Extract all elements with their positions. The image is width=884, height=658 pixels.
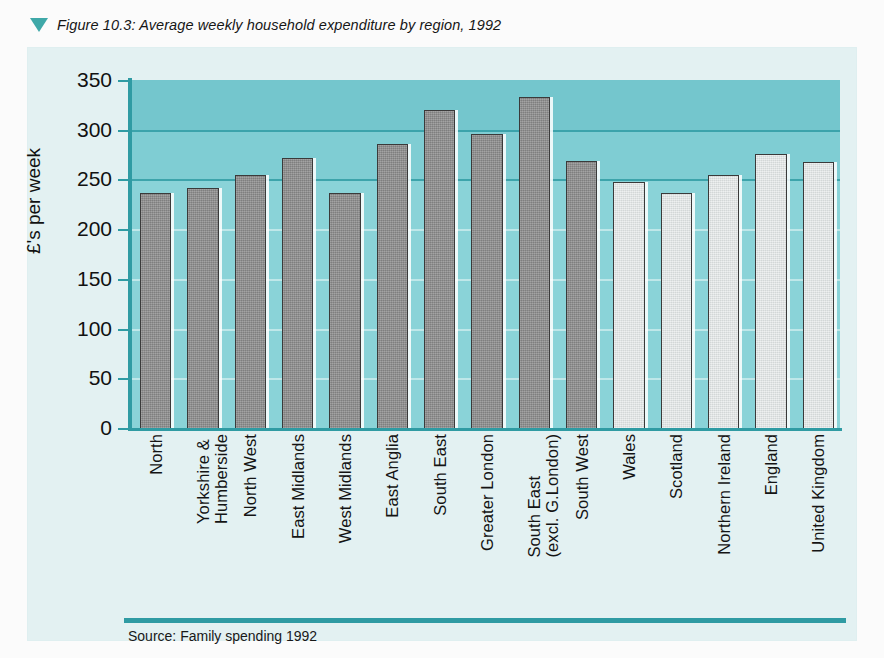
plot-band-upper <box>130 80 840 130</box>
bar-13[interactable] <box>755 154 786 428</box>
bar-8[interactable] <box>519 97 550 428</box>
x-tick-label-0: North <box>147 434 165 475</box>
x-tick-label-11: Scotland <box>667 434 685 499</box>
y-tick-label-0: 0 <box>42 416 112 440</box>
figure-caption-text: Figure 10.3: Average weekly household ex… <box>57 17 501 33</box>
y-tick-150 <box>118 279 130 281</box>
y-tick-100 <box>118 329 130 331</box>
x-tick-label-6: South East <box>431 434 449 516</box>
y-tick-label-50: 50 <box>42 366 112 390</box>
bar-4[interactable] <box>329 193 360 428</box>
y-tick-300 <box>118 130 130 132</box>
bar-11[interactable] <box>661 193 692 428</box>
source-note: Source: Family spending 1992 <box>128 628 317 644</box>
bar-10[interactable] <box>613 182 644 428</box>
y-tick-250 <box>118 179 130 181</box>
x-tick-label-1: Yorkshire & Humberside <box>194 434 231 524</box>
bar-14[interactable] <box>803 162 834 428</box>
x-tick-label-5: East Anglia <box>383 434 401 518</box>
bar-0[interactable] <box>140 193 171 428</box>
x-tick-label-13: England <box>762 434 780 495</box>
y-tick-label-350: 350 <box>42 68 112 92</box>
x-tick-label-4: West Midlands <box>336 434 354 543</box>
x-tick-label-12: Northern Ireland <box>715 434 733 555</box>
y-tick-label-100: 100 <box>42 317 112 341</box>
x-tick-label-3: East Midlands <box>289 434 307 539</box>
y-tick-label-150: 150 <box>42 267 112 291</box>
y-tick-label-200: 200 <box>42 217 112 241</box>
y-tick-label-300: 300 <box>42 118 112 142</box>
gridline-300 <box>130 130 840 132</box>
y-tick-200 <box>118 229 130 231</box>
bar-1[interactable] <box>187 188 218 428</box>
y-axis-title: £'s per week <box>23 148 45 254</box>
x-tick-label-8: South East (excl. G.London) <box>525 434 562 558</box>
y-tick-0 <box>118 428 130 430</box>
footer-divider <box>124 618 846 623</box>
bar-5[interactable] <box>377 144 408 428</box>
y-tick-350 <box>118 80 130 82</box>
x-tick-label-10: Wales <box>620 434 638 480</box>
bar-12[interactable] <box>708 175 739 428</box>
bar-6[interactable] <box>424 110 455 428</box>
y-tick-50 <box>118 378 130 380</box>
bar-3[interactable] <box>282 158 313 428</box>
figure-caption: Figure 10.3: Average weekly household ex… <box>30 14 501 36</box>
figure-page: Figure 10.3: Average weekly household ex… <box>0 0 884 658</box>
bar-2[interactable] <box>235 175 266 428</box>
x-tick-label-14: United Kingdom <box>809 434 827 553</box>
x-axis-line <box>128 428 842 431</box>
x-tick-label-9: South West <box>573 434 591 520</box>
x-tick-label-2: North West <box>241 434 259 517</box>
bar-7[interactable] <box>471 134 502 428</box>
x-tick-label-7: Greater London <box>478 434 496 551</box>
plot-area <box>130 80 840 428</box>
bar-9[interactable] <box>566 161 597 428</box>
chart-panel: 050100150200250300350 £'s per week North… <box>28 48 856 640</box>
triangle-down-icon <box>30 18 48 32</box>
y-tick-label-250: 250 <box>42 167 112 191</box>
